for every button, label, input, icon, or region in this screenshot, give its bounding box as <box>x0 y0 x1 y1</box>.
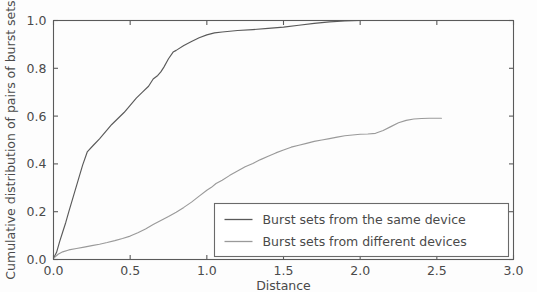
y-tick-label: 0.0 <box>27 252 47 267</box>
x-axis-title: Distance <box>256 278 311 292</box>
legend-label-different-devices: Burst sets from different devices <box>263 234 467 249</box>
x-tick-label: 2.5 <box>427 263 447 278</box>
y-axis-title: Cumulative distribution of pairs of burs… <box>3 0 18 279</box>
x-tick-label: 0.5 <box>120 263 140 278</box>
chart-figure: 0.00.51.01.52.02.53.00.00.20.40.60.81.0D… <box>0 0 537 292</box>
y-tick-label: 0.4 <box>27 156 47 171</box>
x-tick-label: 0.0 <box>44 263 64 278</box>
chart-legend: Burst sets from the same deviceBurst set… <box>215 204 509 257</box>
x-tick-label: 2.0 <box>350 263 370 278</box>
x-tick-label: 3.0 <box>504 263 524 278</box>
chart-svg: 0.00.51.01.52.02.53.00.00.20.40.60.81.0D… <box>0 0 537 292</box>
y-tick-label: 0.8 <box>27 61 47 76</box>
x-tick-label: 1.0 <box>197 263 217 278</box>
y-tick-label: 0.2 <box>27 204 47 219</box>
y-tick-label: 0.6 <box>27 109 47 124</box>
y-tick-label: 1.0 <box>27 13 47 28</box>
x-tick-label: 1.5 <box>274 263 294 278</box>
legend-label-same-device: Burst sets from the same device <box>263 212 467 227</box>
